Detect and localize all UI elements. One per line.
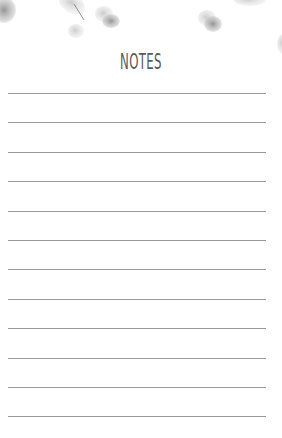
ruled-line (8, 299, 266, 300)
ruled-line (8, 93, 266, 94)
page-title: NOTES (54, 50, 229, 72)
ruled-line (8, 240, 266, 241)
ruled-line (8, 211, 266, 212)
ruled-line (8, 181, 266, 182)
ruled-line (8, 122, 266, 123)
notes-page: NOTES (0, 0, 282, 438)
ruled-line (8, 416, 266, 417)
ruled-line (8, 387, 266, 388)
ruled-line (8, 269, 266, 270)
ruled-line (8, 328, 266, 329)
ruled-line (8, 152, 266, 153)
ruled-line (8, 358, 266, 359)
